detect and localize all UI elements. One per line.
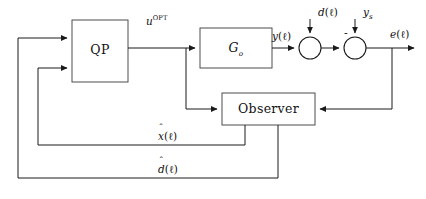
sum-error-minus-sign: - (344, 27, 348, 40)
d-base: d (318, 6, 325, 18)
observer-block-label: Observer (222, 101, 315, 116)
summing-junction-error (344, 37, 366, 59)
ys-subscript: s (369, 12, 373, 21)
u-opt-superscript: OPT (153, 14, 168, 22)
signal-label-ys: ys (363, 6, 373, 21)
signal-label-d: d(ℓ) (318, 6, 338, 18)
wire-xhat-feedback (38, 68, 245, 145)
diagram-vector-layer (0, 0, 426, 199)
qp-block-label: QP (72, 42, 128, 57)
block-diagram-canvas: QP Go Observer uOPT y(ℓ) d(ℓ) ys - e(ℓ) … (0, 0, 426, 199)
u-opt-base: u (146, 15, 153, 27)
signal-label-x-hat: xˆ(ℓ) (158, 130, 177, 142)
plant-label-subscript: o (239, 49, 244, 58)
y-argument: (ℓ) (278, 30, 291, 42)
d-hat-glyph: dˆ (158, 163, 165, 175)
signal-label-d-hat: dˆ(ℓ) (158, 163, 178, 175)
x-hat-mark: ˆ (158, 123, 163, 133)
plant-block-label: Go (200, 40, 272, 58)
signal-label-e: e(ℓ) (390, 28, 409, 40)
d-hat-mark: ˆ (159, 156, 164, 166)
x-hat-glyph: xˆ (158, 130, 164, 142)
signal-label-y: y(ℓ) (272, 30, 291, 42)
signal-label-u-opt: uOPT (146, 14, 168, 27)
d-hat-argument: (ℓ) (165, 163, 178, 175)
d-argument: (ℓ) (325, 6, 338, 18)
summing-junction-disturbance (299, 37, 321, 59)
plant-label-base: G (229, 40, 239, 55)
e-argument: (ℓ) (396, 28, 409, 40)
x-hat-argument: (ℓ) (164, 130, 177, 142)
